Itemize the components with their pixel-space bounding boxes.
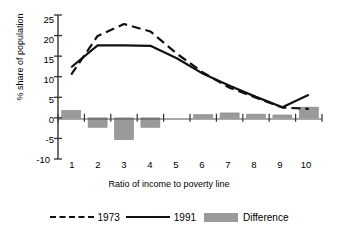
bar-difference-6 — [194, 115, 213, 118]
bar-difference-1 — [62, 110, 81, 117]
axis-group — [54, 15, 322, 159]
dashed-line-icon — [50, 216, 94, 218]
line-series-1991 — [71, 45, 309, 107]
plot-area — [0, 0, 338, 237]
bar-difference-10 — [299, 107, 318, 118]
bar-difference-3 — [115, 118, 134, 140]
bar-series-difference — [62, 107, 319, 140]
bar-difference-9 — [273, 115, 292, 118]
chart-figure: % share of population 25 20 15 10 5 0 -5… — [0, 0, 338, 237]
bar-difference-8 — [247, 114, 266, 118]
solid-line-icon — [126, 216, 170, 218]
chart-legend: 1973 1991 Difference — [0, 206, 338, 228]
bar-difference-7 — [220, 113, 239, 118]
legend-label-1973: 1973 — [98, 212, 120, 223]
legend-item-1991: 1991 — [120, 212, 196, 223]
legend-item-1973: 1973 — [50, 212, 120, 223]
legend-label-1991: 1991 — [174, 212, 196, 223]
gray-swatch-icon — [204, 213, 238, 222]
legend-item-difference: Difference — [196, 212, 288, 223]
legend-label-difference: Difference — [243, 212, 288, 223]
